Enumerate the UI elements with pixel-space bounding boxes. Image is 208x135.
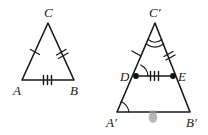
vertex-label-C-prime: C′ <box>149 5 161 20</box>
geometry-figure: C A B <box>0 0 208 135</box>
triangle-A-prime-B-prime-C-prime: C′ A′ B′ D E <box>105 5 197 130</box>
triangle-A-prime-B-prime-C-prime-outline <box>117 23 190 112</box>
point-dot-E <box>170 73 176 79</box>
geometry-canvas: C A B <box>0 0 208 135</box>
triangle-ABC-outline <box>22 23 74 80</box>
segment-C-prime-E-tick-marks <box>164 52 175 61</box>
angle-mark-C-prime <box>146 40 163 48</box>
angle-mark-D <box>141 65 148 76</box>
triangle-ABC: C A B <box>12 5 78 98</box>
vertex-label-C: C <box>44 5 53 20</box>
vertex-label-A-prime: A′ <box>105 115 117 130</box>
vertex-label-B: B <box>70 83 78 98</box>
scan-smudge-artifact <box>149 111 157 123</box>
angle-mark-A-prime <box>121 102 129 113</box>
segment-C-prime-D-tick-marks <box>132 51 141 56</box>
vertex-label-E: E <box>177 69 186 84</box>
vertex-label-D: D <box>119 69 130 84</box>
point-dot-D <box>133 73 139 79</box>
vertex-label-A: A <box>12 83 21 98</box>
vertex-label-B-prime: B′ <box>186 115 197 130</box>
